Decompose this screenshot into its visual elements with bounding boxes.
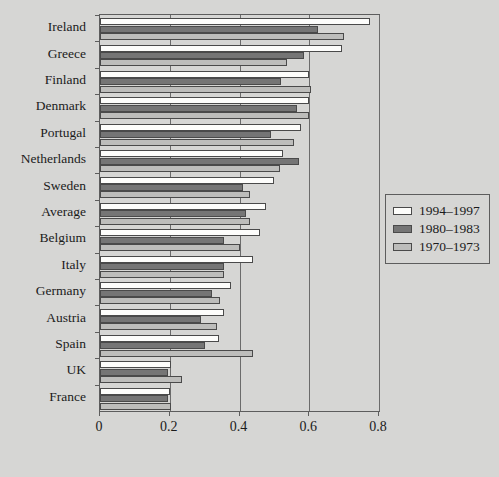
y-axis-tick (95, 253, 100, 254)
y-axis-tick (95, 41, 100, 42)
y-axis-tick (95, 385, 100, 386)
x-axis-tick-label: 0.8 (369, 419, 387, 435)
legend-item: 1970–1973 (393, 238, 480, 256)
bar (100, 342, 205, 349)
y-axis-label-finland: Finland (45, 73, 86, 87)
bar (100, 376, 182, 383)
bar (100, 210, 246, 217)
bar (100, 297, 220, 304)
bar (100, 323, 217, 330)
bar (100, 290, 212, 297)
bar (100, 335, 219, 342)
legend-item: 1980–1983 (393, 220, 480, 238)
gridline (379, 15, 380, 411)
x-axis: 00.20.40.60.8 (99, 411, 380, 451)
white-swatch-icon (393, 207, 412, 215)
bar (100, 78, 281, 85)
bar-group (100, 68, 379, 94)
y-axis-tick (95, 332, 100, 333)
bar (100, 86, 311, 93)
bar (100, 177, 274, 184)
bar (100, 97, 309, 104)
bar-chart: IrelandGreeceFinlandDenmarkPortugalNethe… (0, 0, 499, 477)
legend-item-label: 1970–1973 (419, 240, 480, 254)
bar (100, 33, 344, 40)
bar (100, 165, 280, 172)
x-axis-tick-label: 0.6 (300, 419, 318, 435)
bar (100, 18, 370, 25)
bar (100, 309, 224, 316)
bar (100, 395, 168, 402)
y-axis-tick (95, 147, 100, 148)
dark-gray-swatch-icon (393, 225, 412, 233)
legend: 1994–1997 1980–1983 1970–1973 (385, 194, 490, 264)
bar-group (100, 305, 379, 331)
bar-group (100, 358, 379, 384)
y-axis-label-greece: Greece (48, 47, 86, 61)
x-axis-tick (308, 411, 309, 416)
bar (100, 244, 240, 251)
x-axis-tick (378, 411, 379, 416)
y-axis-tick (95, 279, 100, 280)
bar (100, 158, 299, 165)
bar-group (100, 332, 379, 358)
x-axis-tick-label: 0.4 (230, 419, 248, 435)
bar (100, 350, 253, 357)
bar (100, 271, 224, 278)
bar (100, 263, 224, 270)
x-axis-tick (169, 411, 170, 416)
bar-group (100, 94, 379, 120)
bar-group (100, 200, 379, 226)
bar (100, 150, 283, 157)
y-axis-label-ireland: Ireland (48, 20, 86, 34)
bar (100, 131, 271, 138)
bar (100, 112, 309, 119)
y-axis-label-belgium: Belgium (40, 231, 87, 245)
y-axis-label-uk: UK (67, 363, 87, 377)
bar (100, 388, 170, 395)
x-axis-tick (99, 411, 100, 416)
bar-group (100, 15, 379, 41)
y-axis-label-italy: Italy (61, 258, 86, 272)
bar-group (100, 173, 379, 199)
bar-group (100, 253, 379, 279)
y-axis-label-spain: Spain (55, 337, 86, 351)
bar (100, 184, 243, 191)
y-axis-tick (95, 68, 100, 69)
y-axis-label-average: Average (41, 205, 86, 219)
bar (100, 52, 304, 59)
plot-area (99, 14, 380, 412)
y-axis-label-france: France (49, 390, 86, 404)
bar (100, 282, 231, 289)
bar (100, 369, 168, 376)
y-axis-tick (95, 305, 100, 306)
y-axis-tick (95, 15, 100, 16)
bar-group (100, 147, 379, 173)
bar (100, 26, 318, 33)
bar-group (100, 121, 379, 147)
light-gray-swatch-icon (393, 243, 412, 251)
y-axis-label-austria: Austria (46, 311, 86, 325)
y-axis-label-netherlands: Netherlands (21, 152, 86, 166)
legend-item-label: 1994–1997 (419, 204, 480, 218)
bar-group (100, 279, 379, 305)
bar (100, 256, 253, 263)
y-axis-tick (95, 226, 100, 227)
bar (100, 105, 297, 112)
y-axis-tick (95, 173, 100, 174)
bar (100, 59, 287, 66)
bar-group (100, 41, 379, 67)
bar (100, 403, 171, 410)
y-axis-tick (95, 121, 100, 122)
bar (100, 361, 171, 368)
x-axis-tick-label: 0 (96, 419, 103, 435)
bar-group (100, 385, 379, 411)
legend-item-label: 1980–1983 (419, 222, 480, 236)
bar (100, 124, 301, 131)
y-axis-tick (95, 94, 100, 95)
y-axis-label-denmark: Denmark (36, 99, 86, 113)
y-axis-label-portugal: Portugal (40, 126, 86, 140)
bar (100, 218, 250, 225)
y-axis-label-sweden: Sweden (43, 179, 86, 193)
y-axis-tick (95, 200, 100, 201)
